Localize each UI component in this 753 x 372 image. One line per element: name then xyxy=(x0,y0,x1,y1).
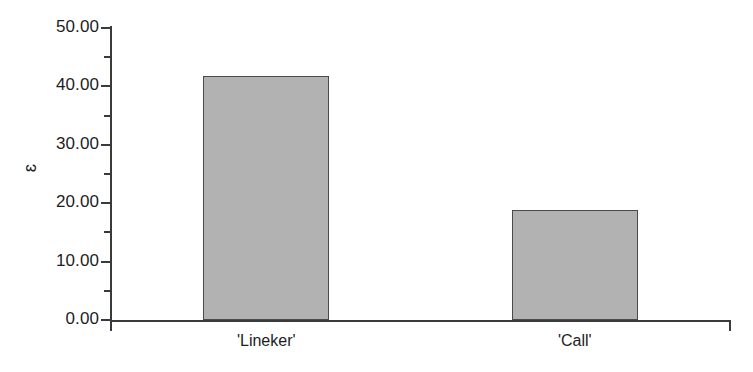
x-axis-origin-tick xyxy=(110,310,112,331)
y-axis-tick-labels: 50.0040.0030.0020.0010.000.00 xyxy=(0,0,99,372)
x-axis-line xyxy=(110,320,731,322)
y-axis-tick-label: 0.00 xyxy=(3,309,99,329)
y-axis-line xyxy=(110,26,112,322)
y-axis-tick-label: 40.00 xyxy=(3,75,99,95)
bar[interactable] xyxy=(203,76,329,320)
y-axis-tick-label: 30.00 xyxy=(3,134,99,154)
y-axis-major-tick xyxy=(101,85,110,87)
x-axis-category-label: 'Lineker' xyxy=(166,332,366,350)
y-axis-major-tick xyxy=(101,27,110,29)
y-axis-tick-label: 10.00 xyxy=(3,251,99,271)
y-axis-major-tick xyxy=(101,202,110,204)
y-axis-major-tick xyxy=(101,319,110,321)
y-axis-tick-label: 20.00 xyxy=(3,192,99,212)
y-axis-tick-label: 50.00 xyxy=(3,17,99,37)
y-axis-major-tick xyxy=(101,261,110,263)
x-axis-category-label: 'Call' xyxy=(475,332,675,350)
x-axis-end-tick xyxy=(729,320,731,331)
y-axis-major-tick xyxy=(101,144,110,146)
bar[interactable] xyxy=(512,210,638,320)
bar-chart: ɛ 50.0040.0030.0020.0010.000.00 'Lineker… xyxy=(0,0,753,372)
